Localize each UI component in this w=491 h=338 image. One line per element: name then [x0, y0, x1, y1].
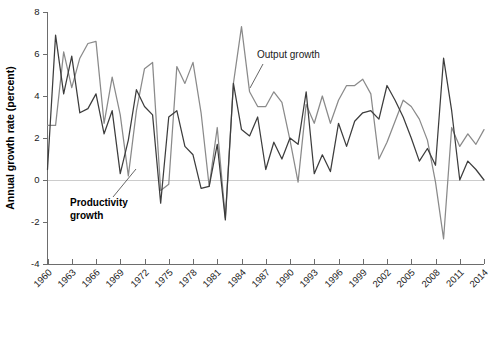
x-tick-label: 1972 — [128, 267, 151, 290]
x-axis: 1960196319661969197219751978198119841987… — [31, 259, 490, 289]
x-tick-label: 1987 — [249, 267, 272, 290]
annotation-productivity-growth-line2: growth — [70, 210, 103, 221]
y-tick-label: 6 — [34, 48, 39, 59]
y-tick-label: -4 — [31, 258, 39, 269]
x-tick-label: 1960 — [31, 267, 54, 290]
x-tick-label: 1975 — [152, 267, 175, 290]
x-tick-label: 1978 — [176, 267, 199, 290]
x-tick-label: 2005 — [394, 267, 417, 290]
y-axis: 86420-2-4 — [31, 6, 47, 269]
x-tick-label: 1981 — [200, 267, 223, 290]
x-tick-label: 2008 — [419, 267, 442, 290]
x-tick-label: 2002 — [370, 267, 393, 290]
annotation-output-growth: Output growth — [257, 49, 320, 60]
x-tick-label: 1984 — [225, 267, 248, 290]
x-tick-label: 1963 — [55, 267, 78, 290]
x-tick-label: 2014 — [467, 267, 490, 290]
y-tick-label: 4 — [34, 90, 39, 101]
annotation-leader-line — [113, 169, 136, 197]
y-tick-label: 0 — [34, 174, 39, 185]
y-tick-label: 8 — [34, 6, 39, 17]
y-tick-label: -2 — [31, 216, 39, 227]
x-tick-label: 1969 — [103, 267, 126, 290]
annotation-leader-line — [250, 64, 263, 88]
x-tick-label: 1966 — [79, 267, 102, 290]
x-tick-label: 1999 — [346, 267, 369, 290]
series-line-productivity-growth — [48, 35, 485, 220]
annotation-productivity-growth: Productivity — [70, 197, 128, 208]
x-tick-label: 1996 — [322, 267, 345, 290]
chart-container: 86420-2-4 196019631966196919721975197819… — [0, 0, 491, 338]
x-tick-label: 1993 — [297, 267, 320, 290]
x-tick-label: 1990 — [273, 267, 296, 290]
x-tick-label: 2011 — [444, 267, 466, 289]
growth-rate-line-chart: 86420-2-4 196019631966196919721975197819… — [0, 0, 491, 338]
y-axis-title: Annual growth rate (percent) — [4, 66, 16, 210]
y-tick-label: 2 — [34, 132, 39, 143]
